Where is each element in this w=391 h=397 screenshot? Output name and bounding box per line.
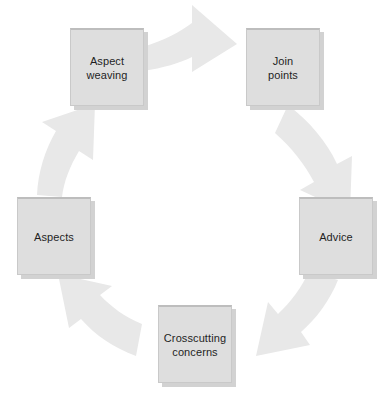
node-advice[interactable]: Advice — [299, 197, 373, 275]
node-join-points[interactable]: Join points — [246, 28, 320, 106]
node-advice-label: Advice — [316, 230, 356, 244]
arrow-weaving-to-joinpoints-icon — [143, 5, 237, 72]
node-aspects[interactable]: Aspects — [17, 197, 91, 275]
node-aspects-label: Aspects — [31, 230, 77, 244]
node-crosscutting-concerns-label: Crosscutting concerns — [161, 331, 229, 359]
node-aspect-weaving-label: Aspect weaving — [83, 54, 130, 82]
cycle-diagram: Aspect weaving Join points Advice Crossc… — [0, 0, 391, 397]
node-join-points-label: Join points — [265, 54, 301, 82]
node-aspect-weaving[interactable]: Aspect weaving — [70, 28, 144, 106]
node-crosscutting-concerns[interactable]: Crosscutting concerns — [158, 305, 232, 383]
arrow-aspects-to-weaving-icon — [37, 104, 95, 197]
arrow-crosscutting-to-aspects-icon — [58, 274, 142, 356]
arrow-advice-to-crosscutting-icon — [256, 271, 338, 356]
